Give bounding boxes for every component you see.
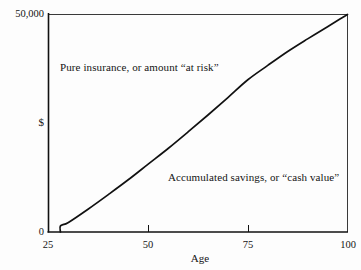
annotation-pure-insurance: Pure insurance, or amount “at risk” <box>60 62 219 73</box>
x-axis-tick-label-50: 50 <box>143 240 154 251</box>
y-axis-tick-label-zero: 0 <box>39 227 44 238</box>
cash-value-curve <box>60 15 348 233</box>
x-axis-tick-label-25: 25 <box>43 240 54 251</box>
x-axis-tick-label-100: 100 <box>340 240 356 251</box>
y-axis-unit-label: $ <box>39 117 45 128</box>
annotation-cash-value: Accumulated savings, or “cash value” <box>168 172 339 183</box>
insurance-cash-value-chart: 50,000 $ 0 25 50 75 100 Age Pure insuran… <box>0 0 361 270</box>
chart-plot-area <box>0 0 361 270</box>
y-axis-tick-label-top: 50,000 <box>15 9 44 20</box>
x-axis-tick-label-75: 75 <box>243 240 254 251</box>
x-axis-title: Age <box>191 253 209 264</box>
